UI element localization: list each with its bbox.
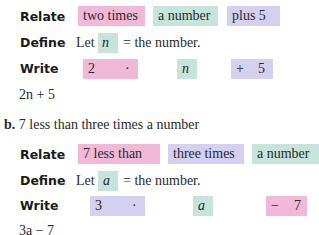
result-expression: 3a − 7 bbox=[19, 221, 54, 235]
define-prefix: Let bbox=[76, 33, 95, 53]
define-variable: a bbox=[98, 171, 118, 191]
define-variable: n bbox=[98, 33, 118, 53]
write-label: Write bbox=[20, 198, 58, 213]
define-label: Define bbox=[20, 35, 66, 50]
relate-phrase-a-number: a number bbox=[252, 144, 319, 164]
define-prefix: Let bbox=[76, 171, 95, 191]
define-suffix: = the number. bbox=[123, 33, 201, 53]
relate-label: Relate bbox=[20, 147, 65, 162]
write-term-coefficient: 2 · bbox=[83, 59, 138, 79]
define-label: Define bbox=[20, 173, 66, 188]
relate-phrase-three-times: three times bbox=[168, 144, 244, 164]
relate-phrase-plus-5: plus 5 bbox=[227, 6, 280, 26]
define-suffix: = the number. bbox=[123, 171, 201, 191]
write-label: Write bbox=[20, 61, 58, 76]
relate-phrase-two-times: two times bbox=[78, 6, 145, 26]
result-expression: 2n + 5 bbox=[19, 85, 55, 105]
write-term-coefficient: 3 · bbox=[90, 196, 145, 216]
write-term-variable: n bbox=[177, 59, 197, 79]
relate-phrase-a-number: a number bbox=[153, 6, 218, 26]
part-b-prompt: b. 7 less than three times a number bbox=[4, 115, 199, 135]
relate-phrase-7-less-than: 7 less than bbox=[78, 144, 160, 164]
write-term-subtracted: − 7 bbox=[266, 196, 307, 216]
write-term-constant: + 5 bbox=[231, 59, 273, 79]
relate-label: Relate bbox=[20, 9, 65, 24]
write-term-variable: a bbox=[193, 196, 213, 216]
